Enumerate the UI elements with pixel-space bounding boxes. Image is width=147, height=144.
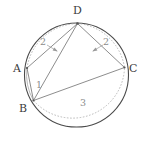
vertex-label-B: B [19,102,27,115]
segment-B-C [34,68,125,101]
vertex-dot-B [32,99,34,101]
arc-label-AB: 1 [36,79,42,90]
arc-label-BC: 3 [80,97,86,108]
pointer-arrowhead-arc-DC [92,47,97,51]
arc-label-DC: 2 [103,36,109,47]
vertex-dot-C [123,66,125,68]
arc-label-AD: 2 [40,36,46,47]
segment-C-D [78,24,125,68]
vertex-dot-A [26,67,28,69]
circle-geometry-figure: A B C D 2 2 1 3 [0,0,147,144]
vertex-dot-D [76,22,79,25]
geometry-diagram-canvas: A B C D 2 2 1 3 [0,0,147,144]
pointer-arrowhead-arc-AD [53,47,58,51]
segment-A-D [27,24,78,69]
segment-A-B [27,68,34,101]
dashed-arc-BC [34,68,125,119]
vertex-label-C: C [129,62,137,75]
vertex-label-D: D [73,4,82,17]
vertex-label-A: A [12,62,22,75]
